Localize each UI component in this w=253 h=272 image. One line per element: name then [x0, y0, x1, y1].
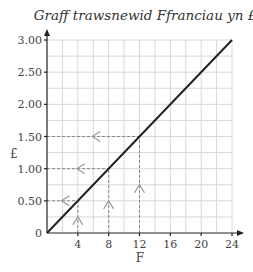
y-tick-label: 3.00 — [18, 34, 43, 47]
x-tick-label: 4 — [74, 238, 81, 251]
y-tick-label: 0 — [35, 227, 42, 240]
x-tick-label: 24 — [225, 238, 239, 251]
y-tick-label: 1.50 — [18, 131, 43, 144]
x-tick-label: 12 — [133, 238, 147, 251]
conversion-chart: Graff trawsnewid Ffranciau yn £ 48121620… — [0, 0, 253, 272]
x-axis-label: F — [136, 251, 144, 265]
x-axis-arrow-icon — [237, 230, 244, 236]
y-axis-label: £ — [10, 147, 18, 161]
y-tick-label: 2.00 — [18, 98, 43, 111]
x-tick-label: 8 — [105, 238, 112, 251]
y-tick-label: 1.00 — [18, 163, 43, 176]
y-tick-label: 2.50 — [18, 66, 43, 79]
x-tick-label: 16 — [163, 238, 177, 251]
chart-title: Graff trawsnewid Ffranciau yn £ — [34, 7, 253, 23]
y-axis-arrow-icon — [44, 29, 50, 36]
y-tick-label: 0.50 — [18, 195, 43, 208]
x-tick-label: 20 — [194, 238, 208, 251]
